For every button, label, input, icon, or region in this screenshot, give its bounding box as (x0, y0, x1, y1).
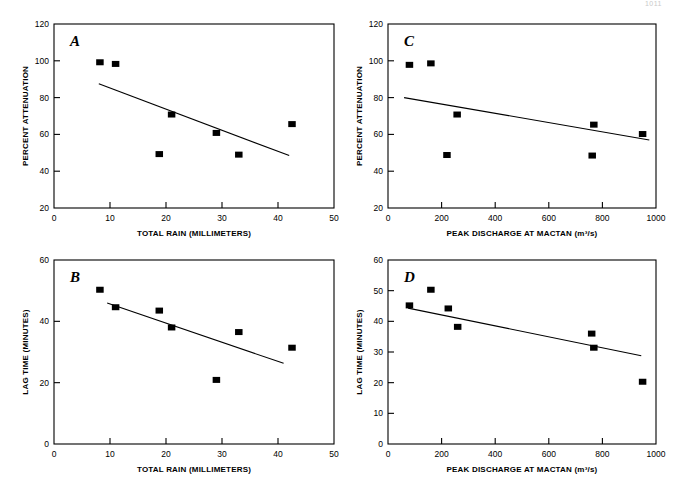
y-axis-title: PERCENT ATTENUATION (355, 66, 364, 166)
x-tick-label: 50 (329, 449, 339, 459)
data-point (112, 61, 120, 67)
x-tick-label: 800 (595, 449, 609, 459)
y-tick-label: 60 (40, 129, 50, 139)
x-tick-label: 40 (273, 213, 283, 223)
x-tick-label: 30 (217, 449, 227, 459)
y-axis-title: PERCENT ATTENUATION (21, 66, 30, 166)
x-tick-label: 1000 (647, 449, 666, 459)
x-tick-label: 50 (329, 213, 339, 223)
x-tick-label: 600 (542, 449, 556, 459)
page-number: 1011 (645, 0, 662, 7)
panel-letter: A (69, 33, 80, 49)
x-tick-label: 0 (52, 213, 57, 223)
y-tick-label: 80 (374, 93, 384, 103)
data-point (96, 59, 104, 65)
x-tick-label: 400 (488, 449, 502, 459)
y-tick-label: 60 (40, 255, 50, 265)
data-point (454, 324, 462, 330)
x-axis-ticks: 02004006008001000 (386, 438, 666, 459)
data-point (639, 379, 647, 385)
y-tick-label: 10 (374, 408, 384, 418)
x-axis-title: PEAK DISCHARGE AT MACTAN (m³/s) (447, 229, 598, 238)
y-tick-label: 0 (44, 439, 49, 449)
data-point (112, 304, 120, 310)
data-point (590, 345, 598, 351)
data-point (156, 308, 164, 314)
y-axis-ticks: 20406080100120 (35, 19, 60, 213)
x-axis-ticks: 02004006008001000 (386, 202, 666, 223)
y-tick-label: 20 (374, 203, 384, 213)
x-axis-title: TOTAL RAIN (MILLIMETERS) (137, 229, 251, 238)
x-tick-label: 30 (217, 213, 227, 223)
data-point (96, 287, 104, 293)
y-tick-label: 40 (40, 316, 50, 326)
x-tick-label: 20 (161, 449, 171, 459)
data-point (168, 112, 176, 118)
y-tick-label: 50 (374, 286, 384, 296)
data-point (288, 121, 296, 127)
data-point (406, 62, 414, 68)
y-tick-label: 100 (35, 56, 49, 66)
data-point (235, 152, 243, 158)
y-tick-label: 80 (40, 93, 50, 103)
data-point (639, 131, 647, 137)
chart-svg-a: 0102030405020406080100120TOTAL RAIN (MIL… (8, 14, 346, 252)
x-tick-label: 400 (488, 213, 502, 223)
x-axis-title: PEAK DISCHARGE AT MACTAN (m³/s) (447, 465, 598, 474)
chart-panel-d: 020040060080010000102030405060PEAK DISCH… (344, 250, 674, 488)
y-axis-ticks: 0204060 (40, 255, 60, 449)
data-point (213, 377, 221, 383)
y-tick-label: 120 (35, 19, 49, 29)
data-point (168, 324, 176, 330)
x-tick-label: 0 (52, 449, 57, 459)
y-axis-ticks: 20406080100120 (369, 19, 394, 213)
y-tick-label: 20 (374, 378, 384, 388)
data-point (588, 331, 596, 337)
data-point (406, 302, 414, 308)
x-tick-label: 200 (435, 449, 449, 459)
chart-panel-b: 010203040500204060TOTAL RAIN (MILLIMETER… (8, 250, 346, 488)
regression-line (99, 84, 289, 156)
x-tick-label: 20 (161, 213, 171, 223)
data-points (406, 287, 647, 385)
x-tick-label: 10 (105, 449, 115, 459)
data-point (445, 305, 453, 311)
regression-line (408, 308, 641, 356)
x-tick-label: 10 (105, 213, 115, 223)
data-point (213, 130, 221, 136)
regression-line (404, 98, 649, 140)
x-tick-label: 800 (595, 213, 609, 223)
y-tick-label: 40 (374, 316, 384, 326)
plot-frame (54, 260, 334, 444)
panel-letter: C (404, 33, 415, 49)
data-point (427, 60, 435, 66)
y-tick-label: 30 (374, 347, 384, 357)
y-tick-label: 60 (374, 255, 384, 265)
x-tick-label: 1000 (647, 213, 666, 223)
chart-panel-c: 0200400600800100020406080100120PEAK DISC… (344, 14, 674, 252)
chart-svg-b: 010203040500204060TOTAL RAIN (MILLIMETER… (8, 250, 346, 488)
x-tick-label: 0 (386, 449, 391, 459)
y-tick-label: 40 (40, 166, 50, 176)
panel-letter: D (403, 269, 415, 285)
data-point (453, 112, 461, 118)
data-point (288, 345, 296, 351)
y-axis-title: LAG TIME (MINUTES) (21, 309, 30, 395)
x-tick-label: 40 (273, 449, 283, 459)
x-axis-title: TOTAL RAIN (MILLIMETERS) (137, 465, 251, 474)
data-point (443, 152, 451, 158)
x-tick-label: 0 (386, 213, 391, 223)
x-tick-label: 600 (542, 213, 556, 223)
data-points (406, 60, 647, 158)
y-tick-label: 120 (369, 19, 383, 29)
y-axis-title: LAG TIME (MINUTES) (355, 309, 364, 395)
chart-svg-c: 0200400600800100020406080100120PEAK DISC… (344, 14, 674, 252)
data-point (427, 287, 435, 293)
data-points (96, 287, 296, 383)
plot-frame (54, 24, 334, 208)
panel-letter: B (69, 269, 80, 285)
x-axis-ticks: 01020304050 (52, 438, 339, 459)
x-axis-ticks: 01020304050 (52, 202, 339, 223)
data-point (588, 153, 596, 159)
chart-panel-a: 0102030405020406080100120TOTAL RAIN (MIL… (8, 14, 346, 252)
